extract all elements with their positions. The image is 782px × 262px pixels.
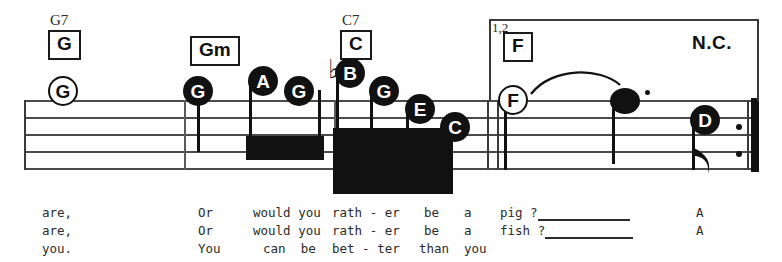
barline-final-thin — [747, 100, 749, 170]
barline-start — [24, 100, 26, 170]
lyric-word: Or — [198, 207, 213, 220]
chord-label-nc: N.C. — [692, 32, 732, 54]
lyric-word: You — [198, 243, 221, 256]
beam-group-1 — [246, 136, 324, 160]
lyric-word: Or — [198, 225, 213, 238]
chord-superscript-c7: C7 — [342, 12, 360, 29]
notehead-e-eighth[interactable]: E — [405, 94, 435, 124]
lyric-word: fish ? — [500, 225, 545, 238]
lyric-word: A — [696, 207, 704, 220]
chord-box-gm[interactable]: Gm — [190, 36, 240, 66]
staff-line-2 — [24, 117, 759, 119]
lyric-row-verse-3: you. You can be bet - ter than you — [0, 243, 782, 261]
lyric-word: are, — [42, 207, 72, 220]
lyric-word: rath - er — [332, 207, 400, 220]
notehead-f-half[interactable]: F — [498, 85, 528, 115]
chord-box-c[interactable]: C — [340, 30, 372, 60]
barline-double-right — [497, 100, 499, 170]
notehead-g-eighth-2[interactable]: G — [369, 76, 399, 106]
lyric-word: a — [464, 225, 472, 238]
lyric-word: pig ? — [500, 207, 538, 220]
notehead-d-eighth[interactable]: D — [690, 105, 720, 135]
notehead-a-eighth[interactable]: A — [248, 66, 278, 96]
lyric-word: would you — [253, 207, 321, 220]
lyric-word: would you — [253, 225, 321, 238]
volta-bracket-right — [757, 19, 759, 101]
tie-slur — [530, 66, 625, 96]
lyric-word: can be — [263, 243, 316, 256]
notehead-dotted-tied[interactable] — [610, 88, 640, 114]
beam-group-2 — [333, 128, 453, 194]
music-score-sheet: 1,2 G7 G Gm C7 C F N.C. G G A G ♭ B G E … — [0, 0, 782, 262]
lyric-word: than — [419, 243, 449, 256]
volta-bracket-left — [489, 19, 491, 101]
lyric-word: you — [464, 243, 487, 256]
barline-double-left — [487, 100, 489, 170]
notehead-g-whole[interactable]: G — [48, 76, 78, 106]
lyric-word: bet - ter — [332, 243, 400, 256]
eighth-flag-icon — [692, 148, 718, 178]
lyric-word: are, — [42, 225, 72, 238]
lyric-word: a — [464, 207, 472, 220]
barline-measure-1 — [184, 100, 186, 170]
volta-bracket-top — [489, 19, 759, 21]
notehead-bflat-eighth[interactable]: B — [335, 58, 365, 88]
chord-box-f[interactable]: F — [503, 32, 533, 62]
repeat-dot-lower — [736, 151, 742, 157]
notehead-g-eighth-1[interactable]: G — [284, 76, 314, 106]
lyric-word: be — [424, 207, 439, 220]
augmentation-dot — [645, 90, 650, 95]
notehead-c-eighth[interactable]: C — [440, 112, 470, 142]
lyric-word: A — [696, 225, 704, 238]
lyric-extension-line — [545, 237, 633, 239]
chord-box-g[interactable]: G — [48, 30, 81, 60]
lyric-word: be — [424, 225, 439, 238]
notehead-g-quarter[interactable]: G — [183, 76, 213, 106]
chord-superscript-g7: G7 — [50, 12, 68, 29]
repeat-dot-upper — [736, 124, 742, 130]
barline-final-thick — [751, 98, 759, 172]
lyric-extension-line — [538, 219, 630, 221]
lyric-word: you. — [42, 243, 72, 256]
lyric-word: rath - er — [332, 225, 400, 238]
